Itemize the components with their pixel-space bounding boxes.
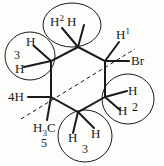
- label-h3-bottom-number: 3: [82, 143, 88, 155]
- label-h3-bottom-h-left: H: [68, 131, 77, 144]
- circle-h2-right: [102, 74, 154, 124]
- label-h2-right-h-upper: H: [128, 84, 137, 97]
- bond-top-h-right: [78, 25, 84, 47]
- chemical-structure-figure: H2H H 3 H H1 Br H H 2 H H 3 4H H3C 5: [0, 0, 164, 166]
- label-methyl-c: C: [47, 120, 56, 135]
- label-h2-right-h-lower: H: [118, 104, 127, 117]
- bond-right-h1: [105, 42, 119, 61]
- label-h2-top: H2H: [50, 14, 76, 28]
- label-h2-top-superscript: 2: [59, 13, 64, 23]
- label-h2-right-number: 2: [132, 101, 138, 113]
- substituent-bonds: [24, 25, 129, 133]
- bond-top-h-left: [62, 28, 78, 47]
- label-h2-top-h-left: H: [50, 14, 59, 29]
- label-h1: H1: [116, 27, 130, 41]
- label-methyl-number: 5: [41, 137, 47, 149]
- bond-lup-h-lower: [24, 61, 51, 67]
- ring-bonds: [51, 47, 105, 112]
- bond-rlow-h-upper: [105, 91, 127, 97]
- label-h1-symbol: H: [116, 27, 125, 42]
- bond-llow-methyl: [47, 97, 51, 120]
- label-h2-top-h-right: H: [67, 14, 76, 29]
- label-h3-bottom-h-right: H: [91, 127, 100, 140]
- label-h3-left-number: 3: [14, 49, 20, 61]
- label-methyl-h: H: [33, 120, 42, 135]
- label-bromine: Br: [131, 54, 144, 67]
- cyclohexane-ring: [51, 47, 105, 112]
- label-4h: 4H: [8, 90, 24, 103]
- bond-lup-h-upper: [34, 46, 51, 61]
- label-h3-left-h-upper: H: [26, 35, 35, 48]
- label-h1-superscript: 1: [125, 26, 130, 36]
- label-h3-left-h-lower: H: [15, 62, 24, 75]
